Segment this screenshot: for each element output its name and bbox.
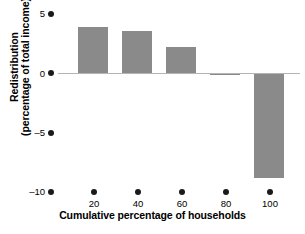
tick-dot-icon	[91, 189, 97, 195]
y-axis-tick-label: –10	[29, 187, 45, 197]
tick-dot-icon	[48, 130, 54, 136]
bar	[166, 47, 196, 73]
tick-dot-icon	[179, 189, 185, 195]
tick-dot-icon	[48, 189, 54, 195]
zero-baseline	[58, 73, 300, 74]
x-axis-tick-label: 40	[123, 199, 153, 209]
y-axis-tick-5: 5	[22, 8, 54, 20]
tick-dot-icon	[267, 189, 273, 195]
y-axis-tick-neg5: –5	[22, 127, 54, 139]
y-axis-tick-label: –5	[34, 128, 45, 138]
bar	[254, 73, 284, 177]
x-axis-tick-label: 80	[211, 199, 241, 209]
tick-dot-icon	[48, 11, 54, 17]
y-axis-tick-neg10: –10	[22, 186, 54, 198]
tick-dot-icon	[223, 189, 229, 195]
x-axis-title: Cumulative percentage of households	[0, 209, 305, 221]
bar	[122, 31, 152, 74]
y-axis-tick-0: 0	[22, 67, 54, 79]
tick-dot-icon	[135, 189, 141, 195]
x-axis-tick-label: 20	[79, 199, 109, 209]
x-axis-tick-label: 60	[167, 199, 197, 209]
bar	[78, 27, 108, 73]
plot-area	[58, 14, 300, 192]
chart-figure: Redistribution (percentage of total inco…	[0, 0, 305, 234]
y-axis-tick-label: 0	[40, 69, 45, 79]
x-axis-tick-label: 100	[255, 199, 285, 209]
y-axis-tick-label: 5	[40, 9, 45, 19]
tick-dot-icon	[48, 70, 54, 76]
